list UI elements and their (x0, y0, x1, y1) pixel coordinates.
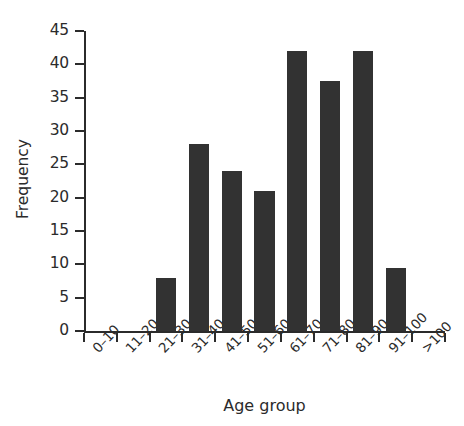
plot-area: 051015202530354045 0–1011–2021–3031–4041… (0, 0, 464, 426)
y-axis-tick (75, 163, 84, 165)
bar (287, 51, 307, 331)
histogram-chart: 051015202530354045 0–1011–2021–3031–4041… (0, 0, 464, 426)
y-axis-tick-label: 25 (31, 154, 69, 172)
y-axis-tick-label: 45 (31, 21, 69, 39)
y-axis-tick (75, 130, 84, 132)
x-axis-tick-label: 0–10 (89, 322, 123, 356)
y-axis-tick (75, 330, 84, 332)
y-axis-tick-label: 0 (31, 321, 69, 339)
bar (222, 171, 242, 331)
y-axis-tick-label: 10 (31, 254, 69, 272)
bar (254, 191, 274, 331)
y-axis-tick (75, 297, 84, 299)
bar (156, 278, 176, 331)
y-axis-tick-label: 40 (31, 54, 69, 72)
y-axis-tick-label: 30 (31, 121, 69, 139)
y-axis-tick (75, 230, 84, 232)
y-axis-tick (75, 263, 84, 265)
x-axis-tick (83, 333, 85, 342)
y-axis-tick-label: 35 (31, 88, 69, 106)
bar (189, 144, 209, 331)
x-axis-title: Age group (84, 396, 445, 415)
bar (320, 81, 340, 331)
y-axis-tick (75, 97, 84, 99)
y-axis-line (84, 31, 86, 332)
bar (353, 51, 373, 331)
y-axis-title: Frequency (14, 109, 32, 249)
y-axis-tick (75, 63, 84, 65)
y-axis-tick-label: 20 (31, 188, 69, 206)
y-axis-tick (75, 30, 84, 32)
y-axis-tick (75, 197, 84, 199)
bar (386, 268, 406, 331)
y-axis-tick-label: 5 (31, 288, 69, 306)
y-axis-tick-label: 15 (31, 221, 69, 239)
